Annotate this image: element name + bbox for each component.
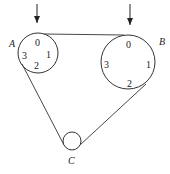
pulley-b-label: B — [159, 36, 165, 47]
pulley-a-label: A — [8, 38, 16, 49]
pulley-a-mark-3: 3 — [22, 50, 27, 61]
pulley-b-mark-0: 0 — [126, 39, 131, 50]
pulley-diagram: 0 1 2 3 A 0 1 2 3 B C — [0, 0, 170, 174]
pulley-b-mark-3: 3 — [104, 59, 109, 70]
pulley-b: 0 1 2 3 B — [101, 35, 165, 89]
pulley-a-mark-1: 1 — [46, 49, 51, 60]
pulley-c-label: C — [68, 155, 75, 166]
pulley-a: 0 1 2 3 A — [8, 33, 58, 73]
belt-left — [22, 64, 64, 145]
belt-right — [80, 84, 146, 145]
pulley-b-mark-2: 2 — [127, 78, 132, 89]
pulley-c: C — [63, 132, 81, 166]
belt-top — [44, 34, 124, 35]
pulley-a-mark-0: 0 — [35, 37, 40, 48]
pulley-b-mark-1: 1 — [146, 59, 151, 70]
pulley-a-mark-2: 2 — [34, 60, 39, 71]
